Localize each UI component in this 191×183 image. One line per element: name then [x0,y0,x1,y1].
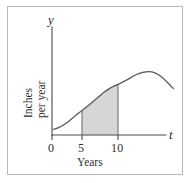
x-axis-title: Years [77,157,103,169]
y-axis-title: Inches per year [18,38,58,118]
y-axis-variable-label: y [48,13,54,26]
x-axis-variable-label: t [169,128,173,141]
figure-root: y t 0 5 10 Years Inches per year [0,0,191,183]
shaded-area-region [82,84,118,135]
x-tick-label-10: 10 [111,142,123,154]
x-tick-label-5: 5 [78,142,84,154]
y-axis-title-line-2: per year [35,81,47,118]
y-axis-title-line-1: Inches [22,88,34,118]
x-tick-label-0: 0 [48,142,54,154]
